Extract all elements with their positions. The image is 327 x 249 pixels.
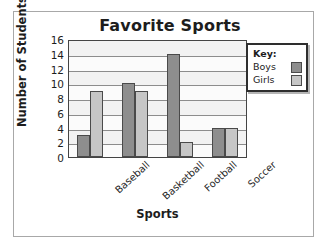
legend-label-girls: Girls <box>253 74 275 86</box>
x-axis-title: Sports <box>68 207 247 221</box>
plot-area <box>68 40 247 158</box>
x-tick-label-baseball: Baseball <box>113 159 152 196</box>
y-tick-label: 8 <box>44 94 64 105</box>
legend-entry-boys: Boys <box>253 61 302 73</box>
bar-soccer-boys <box>212 128 225 158</box>
y-tick-label: 16 <box>44 35 64 46</box>
x-tick-label-football: Football <box>202 159 239 194</box>
bar-baseball-girls <box>90 91 103 157</box>
y-tick-label: 6 <box>44 109 64 120</box>
legend-label-boys: Boys <box>253 61 276 73</box>
legend-title: Key: <box>253 48 302 60</box>
bar-soccer-girls <box>225 128 238 158</box>
chart-figure: Favorite Sports Number of Students 02468… <box>0 0 327 249</box>
x-axis-tick-labels: BaseballBasketballFootballSoccer <box>68 159 247 205</box>
y-tick-label: 14 <box>44 50 64 61</box>
bar-basketball-girls <box>135 91 148 157</box>
legend-entry-girls: Girls <box>253 74 302 86</box>
chart-title: Favorite Sports <box>55 16 285 35</box>
bar-football-girls <box>180 142 193 157</box>
legend-swatch-boys <box>291 62 302 73</box>
y-tick-label: 2 <box>44 138 64 149</box>
bar-baseball-boys <box>77 135 90 157</box>
y-axis-title: Number of Students <box>15 17 29 127</box>
y-tick-label: 10 <box>44 79 64 90</box>
bar-basketball-boys <box>122 83 135 157</box>
x-tick-label-basketball: Basketball <box>160 159 206 202</box>
y-axis-tick-labels: 0246810121416 <box>44 40 64 158</box>
y-tick-label: 4 <box>44 123 64 134</box>
bar-series-container <box>69 41 246 157</box>
legend-swatch-girls <box>291 75 302 86</box>
legend: Key: Boys Girls <box>246 43 308 92</box>
bar-football-boys <box>167 54 180 157</box>
y-tick-label: 12 <box>44 64 64 75</box>
y-tick-label: 0 <box>44 153 64 164</box>
